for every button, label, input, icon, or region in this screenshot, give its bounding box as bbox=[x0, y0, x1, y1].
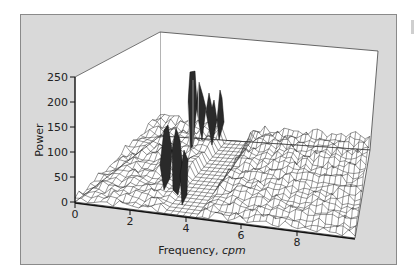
x-tick-8: 8 bbox=[294, 236, 301, 249]
surface-chart: 250 200 150 100 50 0 Power 0 2 4 6 8 Fre… bbox=[0, 0, 416, 280]
y-tick-200: 200 bbox=[47, 96, 68, 109]
y-tick-50: 50 bbox=[54, 171, 68, 184]
y-tick-250: 250 bbox=[47, 71, 68, 84]
y-tick-100: 100 bbox=[47, 146, 68, 159]
y-axis: 250 200 150 100 50 0 Power bbox=[33, 71, 75, 209]
x-axis-title: Frequency, cpm bbox=[158, 244, 246, 257]
y-tick-150: 150 bbox=[47, 121, 68, 134]
x-tick-2: 2 bbox=[127, 215, 134, 228]
x-tick-4: 4 bbox=[183, 222, 190, 235]
x-tick-6: 6 bbox=[238, 229, 245, 242]
x-tick-0: 0 bbox=[72, 208, 79, 221]
y-axis-title: Power bbox=[33, 123, 46, 157]
y-tick-0: 0 bbox=[61, 196, 68, 209]
